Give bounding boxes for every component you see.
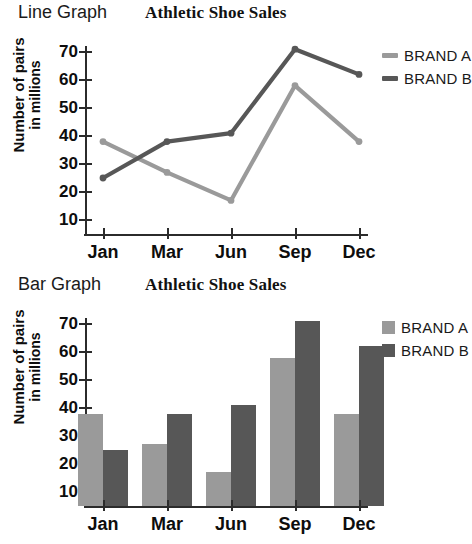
x-axis-tick-label: Sep [265, 514, 325, 535]
legend-swatch-brand-a-icon [382, 321, 395, 334]
x-axis-tick [295, 500, 297, 511]
bar [359, 346, 384, 506]
x-axis-tick-label: Sep [265, 242, 325, 263]
bar [103, 450, 128, 506]
bar-graph-chart: Bar Graph Athletic Shoe Sales Number of … [0, 272, 472, 544]
x-axis-tick [167, 500, 169, 511]
legend-item[interactable]: BRAND A [382, 44, 472, 67]
x-axis-tick [295, 228, 297, 239]
legend-label: BRAND A [401, 319, 468, 336]
legend-item[interactable]: BRAND A [382, 316, 472, 339]
y-axis-tick-labels: 10203040506070 [38, 272, 78, 544]
line-series-layer [0, 0, 472, 272]
line-series [103, 86, 359, 201]
data-point [100, 138, 107, 145]
y-axis-tick-label: 10 [59, 483, 78, 500]
x-axis-tick [103, 500, 105, 511]
bar [206, 472, 231, 506]
two-chart-figure: Line Graph Athletic Shoe Sales Number of… [0, 0, 472, 544]
x-axis-tick-label: Dec [329, 242, 389, 263]
data-point [164, 138, 171, 145]
legend-swatch-brand-b-icon [382, 76, 398, 81]
bar [270, 358, 295, 506]
legend-label: BRAND B [401, 342, 469, 359]
legend-item[interactable]: BRAND B [382, 67, 472, 90]
x-axis-tick [231, 228, 233, 239]
x-axis-tick [359, 228, 361, 239]
y-axis-tick-label: 40 [59, 399, 78, 416]
x-axis-tick-label: Jan [73, 242, 133, 263]
chart-title: Athletic Shoe Sales [145, 275, 287, 295]
legend-label: BRAND B [404, 70, 472, 87]
data-point [356, 138, 363, 145]
x-axis-tick [359, 500, 361, 511]
y-axis-tick-label: 60 [59, 343, 78, 360]
bar [142, 444, 167, 506]
bar [78, 414, 103, 506]
x-axis-tick-label: Dec [329, 514, 389, 535]
bar [231, 405, 256, 506]
x-axis-tick [167, 228, 169, 239]
bar [295, 321, 320, 506]
y-axis-tick-label: 50 [59, 371, 78, 388]
x-axis-tick [231, 500, 233, 511]
x-axis-tick-label: Jun [201, 514, 261, 535]
legend-item[interactable]: BRAND B [382, 339, 472, 362]
y-axis-tick-label: 30 [59, 427, 78, 444]
x-axis-tick-label: Mar [137, 514, 197, 535]
x-axis-line [84, 506, 368, 508]
legend-label: BRAND A [404, 47, 471, 64]
x-axis-tick-label: Jun [201, 242, 261, 263]
data-point [356, 71, 363, 78]
data-point [164, 169, 171, 176]
legend-swatch-brand-a-icon [382, 53, 398, 58]
x-axis-tick-label: Jan [73, 514, 133, 535]
y-axis-title-line1: Number of pairs [10, 309, 27, 424]
data-point [100, 175, 107, 182]
y-axis-tick-label: 20 [59, 455, 78, 472]
data-point [228, 130, 235, 137]
bar-series-layer [85, 320, 365, 506]
line-graph-chart: Line Graph Athletic Shoe Sales Number of… [0, 0, 472, 272]
legend: BRAND A BRAND B [382, 44, 472, 90]
bar [334, 414, 359, 506]
legend-swatch-brand-b-icon [382, 344, 395, 357]
legend: BRAND A BRAND B [382, 316, 472, 362]
y-axis-tick-label: 70 [59, 315, 78, 332]
data-point [292, 46, 299, 53]
data-point [292, 82, 299, 89]
x-axis-tick [103, 228, 105, 239]
bar [167, 414, 192, 506]
x-axis-tick-label: Mar [137, 242, 197, 263]
data-point [228, 197, 235, 204]
